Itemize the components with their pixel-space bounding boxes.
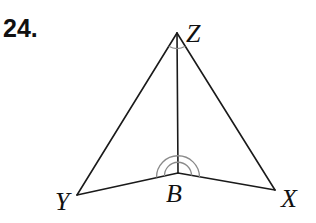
vertex-label-y: Y bbox=[55, 187, 72, 216]
vertex-label-x: X bbox=[280, 184, 298, 213]
vertex-label-b: B bbox=[166, 179, 182, 208]
geometry-figure: Z B Y X bbox=[0, 0, 316, 223]
segment-zy bbox=[77, 33, 177, 195]
vertex-label-z: Z bbox=[186, 19, 201, 48]
segment-yb bbox=[77, 173, 178, 195]
segment-zx bbox=[177, 33, 275, 190]
segment-bx bbox=[178, 173, 275, 190]
segment-zb bbox=[177, 33, 178, 173]
